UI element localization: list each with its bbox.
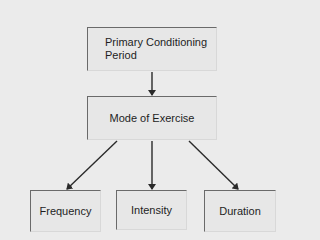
arrow-mode-to-duration [189,141,238,189]
node-label-line1: Primary Conditioning [105,36,207,49]
node-frequency: Frequency [30,190,101,232]
node-label: Mode of Exercise [110,112,195,125]
node-label: Frequency [40,205,92,218]
node-label: Intensity [131,204,172,217]
node-duration: Duration [204,190,276,232]
node-intensity: Intensity [116,190,187,230]
node-label: Duration [219,205,261,218]
arrow-mode-to-frequency [67,141,117,189]
node-primary-conditioning-period: Primary Conditioning Period [87,27,217,71]
node-label-line2: Period [105,49,207,62]
node-mode-of-exercise: Mode of Exercise [87,96,217,140]
